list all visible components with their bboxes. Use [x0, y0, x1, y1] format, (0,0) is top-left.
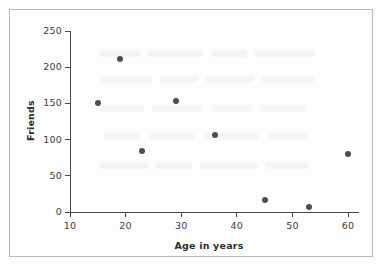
- scatter-plot-canvas: 050100150200250102030405060Age in yearsF…: [0, 0, 385, 270]
- data-point: [212, 132, 218, 138]
- y-axis-tick: [65, 31, 70, 32]
- x-axis-line: [70, 212, 359, 213]
- data-point: [306, 204, 312, 210]
- x-axis-title: Age in years: [70, 240, 348, 251]
- data-point: [139, 148, 145, 154]
- x-axis-tick: [348, 212, 349, 217]
- y-axis-tick-label: 250: [30, 25, 62, 36]
- y-axis-tick: [65, 103, 70, 104]
- data-point: [95, 100, 101, 106]
- data-point: [262, 197, 268, 203]
- x-axis-tick: [236, 212, 237, 217]
- x-axis-tick: [181, 212, 182, 217]
- y-axis-tick: [65, 175, 70, 176]
- x-axis-tick-label: 40: [217, 220, 257, 231]
- y-axis-tick-label: 0: [30, 206, 62, 217]
- y-axis-tick: [65, 67, 70, 68]
- data-point: [173, 98, 179, 104]
- y-axis-line: [70, 31, 71, 212]
- x-axis-tick: [125, 212, 126, 217]
- x-axis-tick: [292, 212, 293, 217]
- scatter-plot-page: 050100150200250102030405060Age in yearsF…: [0, 0, 385, 270]
- data-point: [345, 151, 351, 157]
- y-axis-tick: [65, 139, 70, 140]
- x-axis-tick-label: 10: [50, 220, 90, 231]
- x-axis-tick: [70, 212, 71, 217]
- x-axis-tick-label: 50: [272, 220, 312, 231]
- y-axis-title: Friends: [25, 65, 36, 175]
- x-axis-tick-label: 30: [161, 220, 201, 231]
- x-axis-tick-label: 20: [106, 220, 146, 231]
- data-point: [117, 56, 123, 62]
- x-axis-tick-label: 60: [328, 220, 368, 231]
